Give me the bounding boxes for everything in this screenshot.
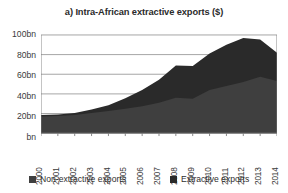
series-areas bbox=[41, 38, 277, 133]
y-axis-tick-label: 20bn bbox=[17, 111, 36, 121]
legend-item-extractive: Extractive exports bbox=[170, 174, 249, 184]
legend-swatch-non-extractive bbox=[29, 176, 36, 183]
y-axis-tick-label: 40bn bbox=[17, 91, 36, 101]
legend-label-extractive: Extractive exports bbox=[181, 174, 249, 184]
chart-title: a) Intra-African extractive exports ($) bbox=[0, 7, 288, 17]
y-axis-tick-label: 80bn bbox=[17, 50, 36, 60]
plot-area bbox=[41, 34, 277, 137]
y-axis-tick-label: 60bn bbox=[17, 70, 36, 80]
y-axis-tick-label: bn bbox=[26, 132, 36, 142]
y-axis-tick-label: 100bn bbox=[12, 29, 36, 39]
area-chart-svg bbox=[41, 34, 277, 137]
legend-label-non-extractive: Non-extractive exports bbox=[40, 174, 126, 184]
legend-swatch-extractive bbox=[170, 176, 177, 183]
chart-figure: a) Intra-African extractive exports ($) … bbox=[0, 0, 288, 193]
legend-item-non-extractive: Non-extractive exports bbox=[29, 174, 126, 184]
chart-legend: Non-extractive exports Extractive export… bbox=[0, 174, 288, 189]
y-axis-labels: bn20bn40bn60bn80bn100bn bbox=[0, 0, 39, 193]
